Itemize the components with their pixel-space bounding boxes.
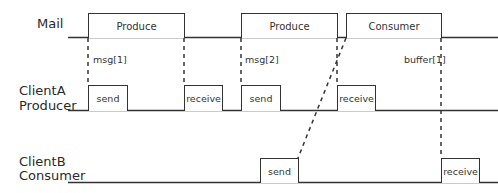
- mail-box-consumer: Consumer: [346, 13, 442, 38]
- clientA-box-send-1: send: [88, 85, 128, 111]
- lane-label-clientB-role: Consumer: [19, 169, 85, 183]
- clientA-box-receive-1: receive: [184, 85, 223, 111]
- clientB-box-send: send: [260, 158, 299, 183]
- clientA-box-receive-2: receive: [337, 85, 376, 111]
- clientB-box-receive: receive: [441, 158, 480, 183]
- lane-label-clientA-name: ClientA: [19, 84, 66, 98]
- mail-box-produce-1: Produce: [88, 13, 185, 38]
- mail-box-produce-2: Produce: [241, 13, 338, 38]
- annotation-msg-2: msg[2]: [245, 54, 279, 65]
- annotation-msg-1: msg[1]: [93, 54, 127, 65]
- lane-label-mail: Mail: [37, 17, 63, 31]
- annotation-buffer-1: buffer[1]: [404, 54, 446, 65]
- clientA-box-send-2: send: [241, 85, 281, 111]
- lane-label-clientA-role: Producer: [19, 99, 77, 113]
- lane-label-clientB-name: ClientB: [19, 155, 66, 169]
